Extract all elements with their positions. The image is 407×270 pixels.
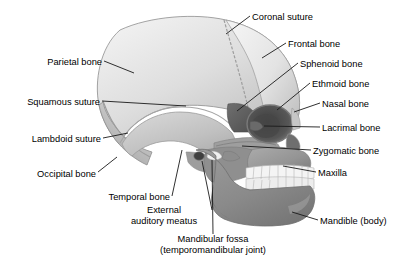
label-mandibular-fossa-line2: (temporomandibular joint) — [100, 245, 326, 256]
label-zygomatic-bone: Zygomatic bone — [313, 146, 379, 157]
label-external-auditory-meatus-line1: External — [147, 205, 181, 215]
label-coronal-suture: Coronal suture — [252, 12, 313, 23]
label-external-auditory-meatus-line2: auditory meatus — [120, 216, 208, 227]
label-frontal-bone: Frontal bone — [288, 39, 340, 50]
leader-occipital-bone — [98, 157, 117, 172]
label-sphenoid-bone: Sphenoid bone — [300, 59, 363, 70]
label-nasal-bone: Nasal bone — [322, 99, 369, 110]
label-maxilla: Maxilla — [318, 168, 347, 179]
label-mandibular-fossa-line1: Mandibular fossa — [178, 234, 249, 244]
label-parietal-bone: Parietal bone — [0, 57, 102, 68]
label-lambdoid-suture: Lambdoid suture — [0, 134, 101, 145]
label-ethmoid-bone: Ethmoid bone — [312, 79, 369, 90]
label-temporal-bone: Temporal bone — [70, 192, 170, 203]
leader-temporal-bone — [172, 150, 182, 196]
label-squamous-suture: Squamous suture — [0, 97, 100, 108]
external-auditory-meatus-shape — [194, 152, 204, 160]
label-mandible-body: Mandible (body) — [320, 216, 387, 227]
label-mandibular-fossa: Mandibular fossa (temporomandibular join… — [100, 234, 326, 256]
label-occipital-bone: Occipital bone — [0, 169, 96, 180]
label-external-auditory-meatus: External auditory meatus — [120, 205, 208, 227]
label-lacrimal-bone: Lacrimal bone — [322, 123, 380, 134]
skull-diagram-figure: Coronal suture Frontal bone Sphenoid bon… — [0, 0, 407, 270]
